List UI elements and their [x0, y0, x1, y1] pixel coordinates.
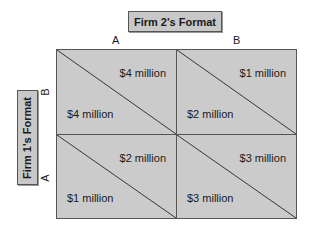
cell-a-a: $2 million $1 million: [56, 134, 177, 219]
firm1-format-label: Firm 1's Format: [17, 90, 38, 185]
diagonal-divider: [177, 135, 296, 218]
firm1-payoff: $3 million: [187, 192, 233, 204]
row-label-a-text: A: [39, 174, 51, 181]
firm2-label-text: Firm 2's Format: [134, 16, 216, 28]
firm2-payoff: $3 million: [240, 152, 286, 164]
row-label-a: A: [41, 172, 48, 184]
firm2-format-label: Firm 2's Format: [128, 11, 222, 32]
row-label-b-text: B: [39, 88, 51, 95]
column-label-a: A: [112, 34, 119, 46]
firm1-label-text: Firm 1's Format: [22, 96, 34, 178]
cell-a-b: $3 million $3 million: [176, 134, 297, 219]
firm2-payoff: $1 million: [240, 67, 286, 79]
diagonal-divider: [57, 50, 176, 134]
firm2-payoff: $2 million: [120, 152, 166, 164]
firm2-payoff: $4 million: [120, 67, 166, 79]
column-label-b: B: [233, 34, 240, 46]
firm1-payoff: $1 million: [67, 192, 113, 204]
diagonal-divider: [57, 135, 176, 218]
diagonal-divider: [177, 50, 296, 134]
firm1-payoff: $4 million: [67, 108, 113, 120]
firm1-payoff: $2 million: [187, 108, 233, 120]
payoff-matrix: $4 million $4 million $1 million $2 mill…: [56, 49, 297, 219]
cell-b-a: $4 million $4 million: [56, 49, 177, 135]
cell-b-b: $1 million $2 million: [176, 49, 297, 135]
row-label-b: B: [41, 86, 48, 98]
